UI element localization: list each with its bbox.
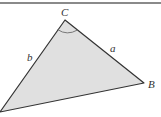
vertex-label-b: B <box>148 78 155 90</box>
side-label-a: a <box>110 42 116 54</box>
side-label-b: b <box>27 51 33 63</box>
triangle-diagram: C B a b <box>0 0 161 117</box>
vertex-label-c: C <box>61 6 69 18</box>
triangle-shape <box>0 20 144 112</box>
